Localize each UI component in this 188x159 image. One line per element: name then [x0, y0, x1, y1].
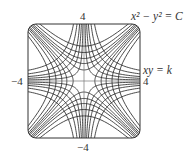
tick-label-right: 4: [143, 76, 149, 87]
hyperbola-curve: [0, 0, 83, 80]
hyperbola-curve: [0, 0, 83, 80]
equation-label-family-1: x² − y² = C: [131, 11, 183, 23]
hyperbola-curve: [0, 0, 83, 80]
orthogonal-trajectories-diagram: [0, 0, 188, 159]
hyperbola-curve: [0, 0, 84, 81]
tick-label-top: 4: [80, 11, 86, 22]
hyperbola-curve: [0, 0, 83, 80]
equation-label-family-2: xy = k: [143, 65, 172, 77]
tick-label-left: −4: [11, 76, 23, 87]
tick-label-bottom: −4: [77, 142, 89, 153]
